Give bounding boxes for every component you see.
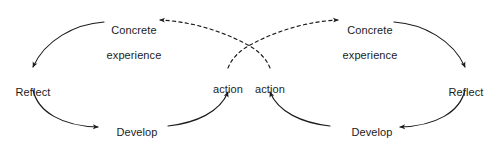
- node-left-reflect-label: Reflect: [2, 86, 64, 99]
- node-left-concrete-experience: Concrete experience: [94, 11, 174, 74]
- node-right-reflect-label: Reflect: [435, 86, 496, 99]
- edge-left-action-to-right-ce: [228, 20, 338, 68]
- node-left-develop-new-theory: Develop new theory: [97, 113, 177, 149]
- node-right-action-label: action: [240, 83, 300, 96]
- node-left-reflect: Reflect: [2, 73, 64, 111]
- node-right-action: action: [240, 70, 300, 108]
- node-right-reflect: Reflect: [435, 73, 496, 111]
- node-right-concrete-experience-line2: experience: [330, 49, 410, 62]
- node-left-develop-new-theory-line1: Develop: [97, 126, 177, 139]
- learning-cycles-diagram: Concrete experience Reflect Develop new …: [0, 0, 496, 149]
- node-right-concrete-experience-line1: Concrete: [330, 24, 410, 37]
- node-right-develop-new-theory-line1: Develop: [332, 126, 412, 139]
- edge-right-action-to-left-ce: [160, 20, 270, 68]
- node-left-concrete-experience-line2: experience: [94, 49, 174, 62]
- node-right-concrete-experience: Concrete experience: [330, 11, 410, 74]
- node-right-develop-new-theory: Develop new theory: [332, 113, 412, 149]
- node-left-concrete-experience-line1: Concrete: [94, 24, 174, 37]
